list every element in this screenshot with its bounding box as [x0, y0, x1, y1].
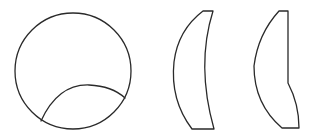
inner-arc [41, 85, 125, 121]
half-lens-outline [254, 11, 299, 128]
crescent-outline [173, 11, 214, 129]
shape-half-lens [254, 11, 299, 128]
shape-crescent [173, 11, 214, 129]
diagram-canvas [0, 0, 314, 135]
outer-circle [15, 13, 131, 129]
shape-circle-with-arc [15, 13, 131, 129]
